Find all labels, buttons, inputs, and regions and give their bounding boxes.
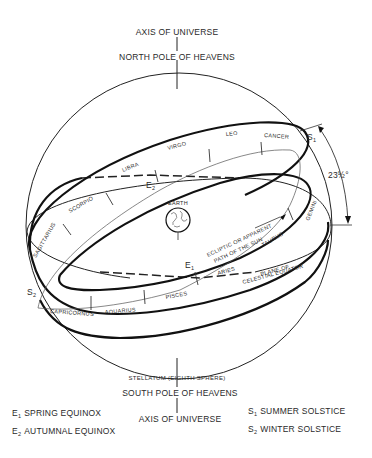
legend-autumnal-equinox: E2AUTUMNAL EQUINOX: [12, 426, 116, 437]
marker-s1: S1: [307, 132, 316, 143]
marker-e2: E2: [146, 180, 155, 191]
angle-arrow-top: [318, 126, 324, 133]
axis-of-universe-bottom: AXIS OF UNIVERSE: [139, 414, 222, 424]
legend-left: E1SPRING EQUINOX E2AUTUMNAL EQUINOX: [12, 408, 116, 437]
ecliptic-band-left-loop: [30, 178, 82, 250]
angle-label: 23½°: [328, 170, 349, 180]
legend-right: S1SUMMER SOLSTICE S2WINTER SOLSTICE: [248, 406, 346, 435]
earth-label: EARTH: [168, 200, 188, 206]
zodiac-leo: LEO: [226, 130, 239, 137]
north-pole-label: NORTH POLE OF HEAVENS: [119, 52, 235, 62]
angle-arrow-bottom: [345, 216, 351, 224]
south-pole-label: SOUTH POLE OF HEAVENS: [122, 388, 238, 398]
legend-spring-equinox: E1SPRING EQUINOX: [12, 408, 101, 419]
celestial-equator-dashed: [82, 175, 240, 178]
zodiac-capricornus: CAPRICORNUS: [50, 308, 94, 317]
legend-summer-solstice: S1SUMMER SOLSTICE: [248, 406, 346, 417]
zodiac-libra: LIBRA: [121, 161, 139, 173]
legend-winter-solstice: S2WINTER SOLSTICE: [248, 424, 341, 435]
zodiac-taurus: TAURUS: [261, 231, 285, 248]
celestial-sphere-diagram: AXIS OF UNIVERSE NORTH POLE OF HEAVENS C…: [0, 0, 372, 458]
zodiac-virgo: VIRGO: [167, 140, 188, 151]
axis-of-universe-top: AXIS OF UNIVERSE: [136, 27, 219, 37]
marker-s2: S2: [27, 287, 36, 298]
zodiac-pisces: PISCES: [165, 290, 188, 300]
stellatum-label: STELLATUM (EIGHTH SPHERE): [128, 375, 225, 381]
zodiac-gemini: GEMINI: [304, 199, 318, 221]
zodiac-cancer: CANCER: [264, 132, 289, 140]
marker-e1: E1: [185, 260, 194, 271]
